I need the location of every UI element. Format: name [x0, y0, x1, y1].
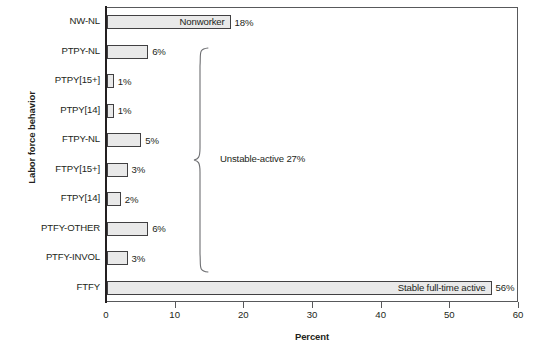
x-tick-mark: [243, 302, 244, 308]
category-label: FTFY: [0, 281, 100, 292]
category-label: NW-NL: [0, 15, 100, 26]
x-tick-mark: [381, 302, 382, 308]
bar-value-label: 3%: [132, 163, 146, 177]
x-tick-mark: [518, 302, 519, 308]
x-tick-label: 10: [155, 309, 195, 320]
bar: [107, 133, 141, 147]
bar: Nonworker: [107, 15, 231, 29]
x-tick-mark: [312, 302, 313, 308]
bar: [107, 251, 128, 265]
bar-value-label: 56%: [496, 281, 515, 295]
category-label: FTPY-NL: [0, 133, 100, 144]
bar: [107, 45, 148, 59]
chart-row: PTFY-INVOL3%: [0, 243, 533, 274]
bar: [107, 74, 114, 88]
x-tick-label: 0: [86, 309, 126, 320]
bar-chart: Labor force behavior NW-NLNonworker18%PT…: [0, 0, 533, 354]
category-label: PTPY[14]: [0, 104, 100, 115]
chart-row: NW-NLNonworker18%: [0, 7, 533, 38]
bar-value-label: 18%: [235, 15, 254, 29]
bar: [107, 104, 114, 118]
chart-row: FTPY-NL5%: [0, 125, 533, 156]
chart-row: PTFY-OTHER6%: [0, 214, 533, 245]
bar: Stable full-time active: [107, 281, 492, 295]
bar-value-label: 3%: [132, 251, 146, 265]
category-label: PTPY[15+]: [0, 74, 100, 85]
chart-row: FTPY[14]2%: [0, 184, 533, 215]
chart-row: FTFYStable full-time active56%: [0, 273, 533, 304]
category-label: PTFY-OTHER: [0, 222, 100, 233]
x-tick-mark: [175, 302, 176, 308]
bar-inner-label: Nonworker: [180, 16, 225, 28]
bar-value-label: 1%: [118, 104, 132, 118]
x-tick-mark: [449, 302, 450, 308]
chart-row: FTPY[15+]3%: [0, 155, 533, 186]
bar: [107, 222, 148, 236]
category-label: PTFY-INVOL: [0, 251, 100, 262]
bar-value-label: 6%: [152, 222, 166, 236]
chart-row: PTPY-NL6%: [0, 37, 533, 68]
category-label: FTPY[14]: [0, 192, 100, 203]
bar-inner-label: Stable full-time active: [398, 282, 486, 294]
x-tick-label: 60: [498, 309, 533, 320]
bar: [107, 163, 128, 177]
bar-value-label: 6%: [152, 45, 166, 59]
x-tick-label: 20: [223, 309, 263, 320]
x-tick-label: 40: [361, 309, 401, 320]
chart-row: PTPY[14]1%: [0, 96, 533, 127]
x-tick-label: 30: [292, 309, 332, 320]
x-tick-label: 50: [429, 309, 469, 320]
bar-value-label: 5%: [145, 133, 159, 147]
bar-value-label: 2%: [125, 192, 139, 206]
category-label: FTPY[15+]: [0, 163, 100, 174]
chart-row: PTPY[15+]1%: [0, 66, 533, 97]
bar: [107, 192, 121, 206]
category-label: PTPY-NL: [0, 45, 100, 56]
bar-value-label: 1%: [118, 74, 132, 88]
x-axis-title: Percent: [106, 331, 518, 342]
x-tick-labels: 0102030405060: [0, 309, 533, 325]
